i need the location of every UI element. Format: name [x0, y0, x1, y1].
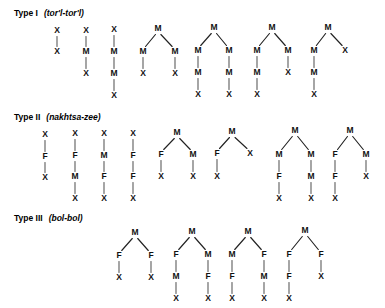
tree-node-X: X [247, 148, 253, 158]
tree-edge [331, 34, 342, 46]
tree-t2-1: XFX [42, 129, 48, 182]
tree-node-X: X [158, 171, 164, 181]
section-heading: Type III(bol-bol) [14, 213, 83, 223]
tree-edge [195, 238, 206, 250]
tree-edge [338, 137, 348, 150]
tree-node-F: F [148, 250, 153, 260]
tree-edge [353, 137, 364, 150]
tree-node-F: F [116, 250, 121, 260]
section-type-label: Type I [14, 8, 38, 18]
tree-edge [217, 34, 227, 46]
tree-node-M: M [188, 226, 195, 236]
tree-node-M: M [194, 45, 201, 55]
tree-node-F: F [276, 171, 281, 181]
tree-edge [146, 35, 156, 47]
tree-t2-3: XFMX [100, 128, 107, 203]
tree-node-X: X [54, 46, 60, 56]
tree-node-M: M [307, 171, 314, 181]
tree-node-X: X [229, 293, 235, 303]
tree-node-X: X [42, 129, 48, 139]
tree-edge [316, 34, 325, 46]
tree-node-X: X [342, 45, 348, 55]
tree-edge [251, 238, 262, 250]
tree-node-X: X [363, 171, 369, 181]
tree-node-F: F [332, 171, 337, 181]
tree-t2-7: XFMXMMM [275, 125, 314, 203]
tree-node-X: X [83, 68, 89, 78]
tree-node-M: M [284, 45, 291, 55]
tree-node-M: M [204, 249, 211, 259]
tree-node-X: X [226, 89, 232, 99]
tree-node-M: M [154, 23, 161, 33]
tree-edge [164, 139, 175, 150]
tree-node-M: M [253, 67, 260, 77]
tree-node-M: M [171, 46, 178, 56]
tree-node-M: M [310, 45, 317, 55]
tree-node-M: M [139, 46, 146, 56]
tree-edge [220, 138, 230, 149]
tree-node-X: X [190, 171, 196, 181]
tree-node-X: X [172, 68, 178, 78]
tree-t3-2: XMFXFMM [172, 226, 211, 303]
section-type-1: Type I(tor'l-tor'l)XXXMXXMMXXMXMMXMMXMMM… [14, 8, 348, 100]
tree-node-M: M [362, 149, 369, 159]
tree-node-F: F [229, 271, 234, 281]
tree-t2-8: XFFXMM [332, 125, 369, 203]
tree-t1-2: XMX [82, 25, 89, 78]
tree-node-M: M [225, 67, 232, 77]
tree-node-M: M [253, 45, 260, 55]
tree-node-X: X [285, 67, 291, 77]
section-gloss: (nakhtsa-zee) [46, 112, 100, 122]
section-heading: Type I(tor'l-tor'l) [14, 8, 84, 18]
tree-node-X: X [54, 25, 60, 35]
tree-node-X: X [332, 193, 338, 203]
tree-node-X: X [261, 293, 267, 303]
tree-t1-4: XMXMM [139, 23, 178, 78]
tree-node-F: F [286, 249, 291, 259]
tree-t3-1: XFXFM [116, 227, 154, 282]
tree-node-X: X [318, 271, 324, 281]
tree-t3-4: XFFXFM [286, 225, 324, 303]
tree-node-F: F [261, 249, 266, 259]
tree-node-X: X [276, 193, 282, 203]
tree-node-X: X [101, 193, 107, 203]
section-heading: Type II(nakhtsa-zee) [14, 112, 101, 122]
tree-node-M: M [324, 22, 331, 32]
tree-t1-7: XMMXM [310, 22, 348, 99]
tree-t2-2: XMFX [71, 128, 78, 203]
tree-node-M: M [268, 22, 275, 32]
tree-t1-3: XMMX [110, 24, 117, 100]
tree-node-M: M [307, 149, 314, 159]
tree-node-M: M [310, 67, 317, 77]
tree-edge [298, 137, 309, 150]
tree-edge [235, 138, 247, 149]
section-type-2: Type II(nakhtsa-zee)XFXXMFXXFMXXFFXXFXMM… [14, 112, 370, 203]
tree-node-X: X [311, 89, 317, 99]
tree-node-X: X [205, 293, 211, 303]
tree-edge [180, 139, 191, 150]
section-type-3: Type III(bol-bol)XFXFMXMFXFMMXFMXMFMXFFX… [14, 213, 324, 303]
tree-edge [122, 239, 133, 251]
tree-node-M: M [210, 22, 217, 32]
tree-t3-3: XFMXMFM [228, 226, 267, 303]
tree-node-X: X [72, 128, 78, 138]
tree-node-M: M [275, 149, 282, 159]
tree-node-M: M [194, 67, 201, 77]
tree-edge [179, 238, 190, 250]
tree-node-M: M [189, 149, 196, 159]
tree-node-X: X [148, 272, 154, 282]
tree-node-F: F [158, 149, 163, 159]
tree-node-F: F [173, 249, 178, 259]
tree-node-M: M [110, 46, 117, 56]
section-type-label: Type II [14, 112, 40, 122]
section-gloss: (bol-bol) [49, 213, 83, 223]
tree-edge [292, 237, 303, 250]
section-type-label: Type III [14, 213, 43, 223]
tree-node-F: F [42, 151, 47, 161]
tree-node-F: F [130, 150, 135, 160]
tree-edge [161, 35, 172, 47]
tree-node-M: M [260, 271, 267, 281]
tree-node-X: X [116, 272, 122, 282]
tree-t2-6: XFXM [214, 126, 253, 181]
tree-edge [308, 237, 319, 250]
